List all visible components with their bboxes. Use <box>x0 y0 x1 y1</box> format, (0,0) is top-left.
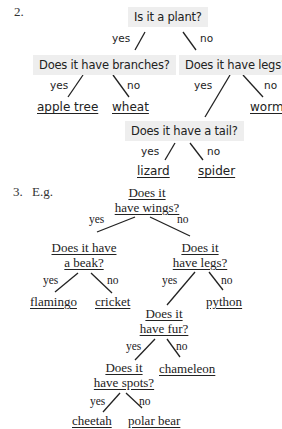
leaf-flamingo: flamingo <box>30 294 77 310</box>
question-is-plant: Is it a plant? <box>128 7 208 27</box>
question-legs: Does it have legs? <box>179 55 282 75</box>
question-legs-3: Does it have legs? <box>164 240 236 270</box>
question-spots: Does it have spots? <box>92 360 156 390</box>
label-no: no <box>221 274 233 286</box>
leaf-cricket: cricket <box>95 294 130 310</box>
question-tail: Does it have a tail? <box>125 121 244 141</box>
label-no: no <box>176 340 188 352</box>
label-no: no <box>200 32 213 44</box>
section-3-number: 3. <box>13 184 23 200</box>
label-no: no <box>139 395 151 407</box>
label-yes: yes <box>141 145 159 157</box>
label-yes: yes <box>43 274 58 286</box>
label-yes: yes <box>50 79 68 91</box>
label-yes: yes <box>126 340 141 352</box>
leaf-spider: spider <box>198 164 235 178</box>
leaf-python: python <box>206 294 242 310</box>
leaf-chameleon: chameleon <box>159 361 215 377</box>
question-branches: Does it have branches? <box>33 55 176 75</box>
question-beak: Does it have a beak? <box>44 240 124 270</box>
label-no: no <box>177 213 189 225</box>
question-wings: Does it have wings? <box>107 185 187 215</box>
leaf-polar-bear: polar bear <box>128 413 180 429</box>
leaf-apple-tree: apple tree <box>37 100 98 114</box>
label-no: no <box>107 274 119 286</box>
label-no: no <box>127 79 140 91</box>
label-yes: yes <box>194 79 212 91</box>
label-yes: yes <box>90 395 105 407</box>
label-yes: yes <box>89 213 104 225</box>
leaf-wheat: wheat <box>112 100 149 114</box>
example-prefix: E.g. <box>32 184 53 200</box>
label-no: no <box>207 145 220 157</box>
leaf-lizard: lizard <box>137 164 170 178</box>
label-yes: yes <box>112 32 130 44</box>
leaf-worm: worm <box>250 100 282 114</box>
label-no: no <box>264 79 277 91</box>
leaf-cheetah: cheetah <box>72 413 112 429</box>
question-fur: Does it have fur? <box>138 306 190 336</box>
section-2-number: 2. <box>14 4 24 20</box>
label-yes: yes <box>162 274 177 286</box>
